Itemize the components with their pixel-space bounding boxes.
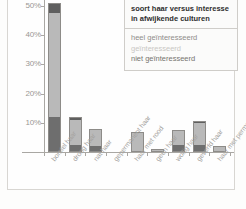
legend-item-heel-geinteresseerd: heel geïnteresseerd bbox=[131, 33, 232, 44]
y-tick-label-30: 30% bbox=[16, 59, 41, 69]
legend-item-geinteresseerd: geïnteresseerd bbox=[131, 44, 232, 55]
y-tick-text: 40% bbox=[26, 30, 41, 39]
y-tick-text: 10% bbox=[26, 118, 41, 127]
bar-segment-niet-geïnteresseerd bbox=[48, 3, 61, 13]
bar-segment-geïnteresseerd bbox=[48, 13, 61, 117]
x-axis-labels: borstel haardroog haarnat haargepermanen… bbox=[0, 156, 246, 209]
y-tick-label-20: 20% bbox=[16, 89, 41, 99]
legend-title: soort haar versus interesse in afwijkend… bbox=[125, 0, 237, 29]
y-tick-label-10: 10% bbox=[16, 118, 41, 128]
y-tick-text: 50% bbox=[26, 1, 41, 10]
legend-title-line-2: in afwijkende culturen bbox=[131, 14, 232, 24]
y-tick-label-50: 50% bbox=[16, 1, 41, 11]
y-tick-label-40: 40% bbox=[16, 30, 41, 40]
legend-item-niet-geinteresseerd: niet geïnteresseerd bbox=[131, 54, 232, 65]
y-tick-text: 20% bbox=[26, 89, 41, 98]
legend-items: heel geïnteresseerd geïnteresseerd niet … bbox=[125, 29, 237, 70]
legend-title-line-1: soort haar versus interesse bbox=[131, 4, 232, 14]
y-tick-text: 30% bbox=[26, 59, 41, 68]
legend: soort haar versus interesse in afwijkend… bbox=[124, 0, 238, 71]
chart-container: 10%20%30%40%50% borstel haardroog haarna… bbox=[0, 0, 246, 209]
bar-borstel-haar bbox=[48, 3, 61, 152]
